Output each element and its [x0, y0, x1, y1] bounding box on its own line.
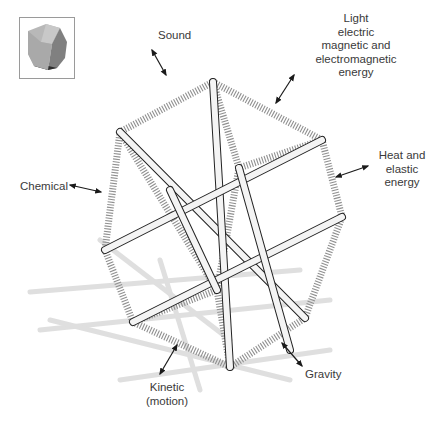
label-line: elastic: [372, 163, 432, 177]
label-line: Heat and: [372, 149, 432, 163]
floor-shadow: [30, 240, 330, 390]
label-heat-elastic: Heat and elastic energy: [372, 149, 432, 190]
label-chemical: Chemical: [20, 180, 80, 194]
label-light-energy: Light electric magnetic and electromagne…: [291, 12, 421, 80]
label-line: magnetic and: [291, 39, 421, 53]
label-line: Kinetic: [137, 381, 197, 395]
label-line: energy: [291, 66, 421, 80]
arrow-sound: [152, 50, 166, 75]
spring-heat: [322, 140, 342, 217]
spring-sound: [120, 82, 213, 132]
arrow-heat: [336, 166, 368, 177]
label-line: (motion): [137, 395, 197, 409]
label-line: energy: [372, 176, 432, 190]
label-line: electric: [291, 26, 421, 40]
label-gravity: Gravity: [305, 368, 365, 382]
label-kinetic: Kinetic (motion): [137, 381, 197, 408]
label-line: Light: [291, 12, 421, 26]
label-sound: Sound: [158, 29, 208, 43]
spring-chemical: [105, 132, 120, 250]
label-line: electromagnetic: [291, 53, 421, 67]
